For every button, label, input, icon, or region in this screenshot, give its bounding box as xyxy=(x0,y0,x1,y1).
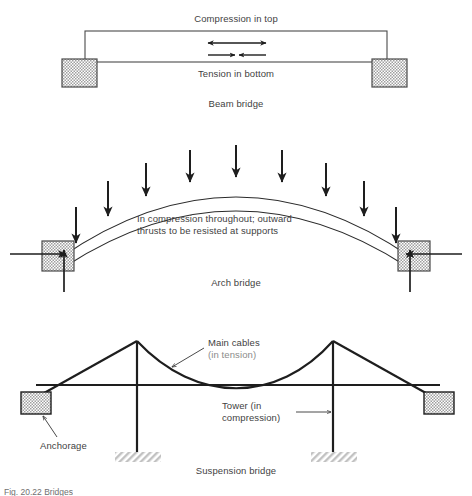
arch-note-line-1: In compression throughout; outward xyxy=(137,213,292,225)
arch-bridge-title: Arch bridge xyxy=(211,277,261,288)
beam-support-left xyxy=(62,59,97,87)
tower-base-left xyxy=(115,452,161,462)
beam-member xyxy=(85,31,387,62)
beam-tension-label: Tension in bottom xyxy=(198,68,274,79)
anchorage-label: Anchorage xyxy=(40,440,87,452)
tower-label-line-2: compression) xyxy=(222,412,280,424)
leader-main-cables xyxy=(172,348,204,367)
beam-support-right xyxy=(372,59,407,87)
beam-compression-label: Compression in top xyxy=(194,13,278,24)
suspension-bridge-title: Suspension bridge xyxy=(196,465,276,476)
cable-backstay-right xyxy=(333,341,433,397)
tower-label-line-1: Tower (in xyxy=(222,400,261,412)
leader-anchorage xyxy=(43,416,57,437)
tower-base-right xyxy=(311,452,357,462)
cable-backstay-left xyxy=(37,341,137,397)
arch-abutment-left xyxy=(42,241,74,271)
figure-caption: Fig. 20.22 Bridges xyxy=(4,487,73,496)
main-cables-tension-note: (in tension) xyxy=(208,349,256,361)
anchorage-right xyxy=(424,392,454,414)
bridge-types-figure: Compression in top Tension in bottom Bea… xyxy=(0,0,472,496)
arch-note-line-2: thrusts to be resisted at supports xyxy=(137,225,278,237)
main-cables-label: Main cables xyxy=(208,337,260,349)
beam-bridge-title: Beam bridge xyxy=(209,98,264,109)
anchorage-left xyxy=(21,392,51,414)
arch-abutment-right xyxy=(398,241,430,271)
